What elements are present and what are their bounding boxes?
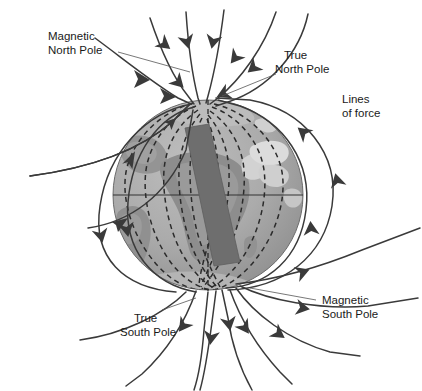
label-lines-of-force-line1: Lines bbox=[342, 93, 370, 105]
label-magnetic-north-line1: Magnetic bbox=[48, 30, 95, 42]
label-true-north-line2: North Pole bbox=[275, 63, 329, 75]
arrow-right-1 bbox=[328, 171, 347, 188]
field-line-bottom-7 bbox=[194, 292, 208, 390]
arrow-top-3 bbox=[178, 33, 197, 50]
label-true-south-line1: True bbox=[134, 312, 157, 324]
arrow-top-2 bbox=[168, 72, 189, 93]
field-line-bottom-1 bbox=[222, 290, 252, 390]
label-magnetic-south-line1: Magnetic bbox=[322, 294, 369, 306]
arrow-bottom-1 bbox=[220, 316, 238, 333]
arrow-bottom-5 bbox=[295, 299, 312, 317]
label-true-south-line2: South Pole bbox=[120, 326, 176, 338]
magnetic-field-diagram: Magnetic North Pole True North Pole Line… bbox=[0, 0, 422, 391]
label-true-north-line1: True bbox=[284, 49, 307, 61]
label-magnetic-north-line2: North Pole bbox=[48, 44, 102, 56]
field-line-top-2 bbox=[186, 12, 200, 104]
field-line-bottom-8 bbox=[126, 291, 196, 386]
field-line-upper-left-1 bbox=[95, 38, 191, 104]
label-lines-of-force-line2: of force bbox=[342, 107, 380, 119]
field-line-top-3 bbox=[206, 10, 224, 103]
arrow-right-3 bbox=[302, 220, 319, 235]
label-magnetic-south-line2: South Pole bbox=[322, 308, 378, 320]
leader-magnetic-north bbox=[118, 52, 190, 72]
arrow-top-5 bbox=[224, 48, 245, 69]
arrow-upper-left-2 bbox=[160, 88, 176, 104]
